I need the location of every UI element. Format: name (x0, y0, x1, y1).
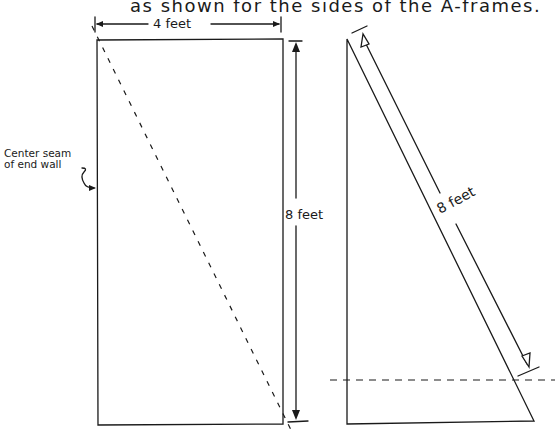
diagonal-cut-line (92, 26, 293, 434)
width-label: 4 feet (153, 16, 191, 31)
plywood-sheet-rectangle (97, 39, 283, 425)
diagonal-label: 8 feet (434, 183, 478, 217)
caption-text: as shown for the sides of the A-frames. (130, 0, 541, 16)
arrow-left-icon (96, 21, 103, 27)
seam-label-line2: of end wall (4, 158, 61, 170)
arrow-right-icon (273, 21, 280, 27)
arrow-down-icon (522, 353, 530, 367)
diagram-canvas: as shown for the sides of the A-frames. … (0, 0, 558, 436)
seam-pointer-line (82, 168, 94, 188)
arrow-up-icon (361, 34, 369, 47)
diagonal-dimension: 8 feet (352, 26, 539, 376)
arrow-right-icon (89, 185, 96, 191)
triangle-cut-piece (347, 39, 534, 424)
center-seam-callout: Center seam of end wall (4, 147, 96, 191)
height-dimension: 8 feet (285, 41, 323, 422)
arrow-up-icon (292, 42, 300, 52)
height-label: 8 feet (285, 207, 323, 222)
width-dimension: 4 feet (95, 16, 281, 32)
arrow-down-icon (292, 410, 300, 420)
